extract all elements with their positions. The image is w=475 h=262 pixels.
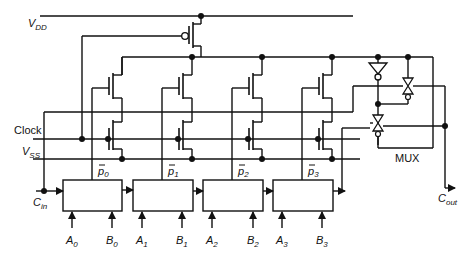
b2-label: B2 <box>247 234 259 249</box>
p0-label: p0 <box>97 165 109 179</box>
transmission-gate-top <box>353 57 445 112</box>
mux-label: MUX <box>395 152 420 164</box>
stage-0-transistors <box>79 57 125 180</box>
pg-block-3 <box>273 180 333 211</box>
carry-in-bypass-line <box>44 112 353 190</box>
p2-label: p2 <box>237 165 249 179</box>
b1-label: B1 <box>176 234 188 249</box>
cout-label: Cout <box>438 192 458 207</box>
transmission-gate-bottom <box>370 57 448 148</box>
vdd-rail <box>40 13 353 19</box>
p3-label: p3 <box>307 165 319 179</box>
input-arrows <box>72 212 322 228</box>
input-labels: A0 B0 A1 B1 A2 B2 A3 B3 <box>65 234 328 249</box>
vss-label: VSS <box>22 145 41 160</box>
a2-label: A2 <box>205 234 218 249</box>
cin-label: Cin <box>33 196 48 211</box>
carry-chain-diagram: VDD Clock VSS Cin Cout MUX p0 p1 p2 p3 A… <box>0 0 475 262</box>
stage-3-carry-wire <box>342 112 370 191</box>
a3-label: A3 <box>275 234 288 249</box>
carry-out-wire <box>445 86 455 188</box>
stage-1-transistors <box>162 57 195 180</box>
a0-label: A0 <box>65 234 78 249</box>
b3-label: B3 <box>316 234 328 249</box>
vdd-label: VDD <box>28 17 47 32</box>
clock-label: Clock <box>14 124 42 136</box>
b0-label: B0 <box>106 234 118 249</box>
stage-3-transistors <box>302 57 335 180</box>
a1-label: A1 <box>135 234 148 249</box>
pg-block-1 <box>133 180 193 211</box>
p1-label: p1 <box>167 165 179 179</box>
stage-2-transistors <box>232 57 265 180</box>
propagate-labels: p0 p1 p2 p3 <box>97 165 319 179</box>
pg-block-0 <box>63 180 122 211</box>
pg-block-2 <box>203 180 263 211</box>
carry-in-wire <box>36 188 63 194</box>
